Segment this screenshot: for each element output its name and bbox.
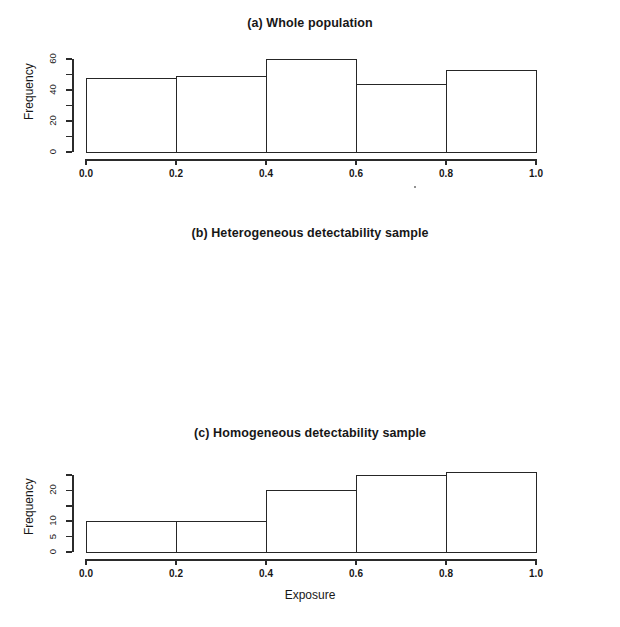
y-tick bbox=[66, 74, 72, 76]
y-tick bbox=[66, 105, 72, 107]
x-tick-label: 0.0 bbox=[66, 168, 106, 179]
x-tick-label: 0.6 bbox=[336, 168, 376, 179]
panel-a-y-axis-label: Frequency bbox=[22, 63, 36, 120]
histogram-figure: (a) Whole population Frequency 02040600.… bbox=[0, 0, 620, 627]
x-axis-line bbox=[86, 159, 536, 161]
y-tick bbox=[66, 120, 72, 122]
panel-homogeneous-detectability: (c) Homogeneous detectability sample Fre… bbox=[0, 410, 620, 627]
y-tick-label: 60 bbox=[47, 49, 58, 69]
x-tick bbox=[265, 159, 267, 165]
panel-c-title: (c) Homogeneous detectability sample bbox=[0, 426, 620, 440]
histogram-bar bbox=[446, 70, 537, 154]
y-tick bbox=[66, 136, 72, 138]
histogram-bar bbox=[266, 59, 357, 153]
histogram-bar bbox=[176, 76, 267, 153]
x-tick bbox=[175, 159, 177, 165]
x-tick-label: 0.2 bbox=[156, 168, 196, 179]
panel-heterogeneous-detectability: (b) Heterogeneous detectability sample F… bbox=[0, 210, 620, 410]
y-tick bbox=[66, 151, 72, 153]
y-tick-label: 40 bbox=[47, 80, 58, 100]
histogram-bar bbox=[356, 84, 447, 154]
y-tick bbox=[66, 58, 72, 60]
y-tick bbox=[66, 89, 72, 91]
x-tick-label: 0.8 bbox=[426, 168, 466, 179]
x-tick bbox=[535, 159, 537, 165]
scan-speck bbox=[414, 186, 416, 188]
panel-a-title: (a) Whole population bbox=[0, 16, 620, 30]
x-tick bbox=[445, 159, 447, 165]
x-tick bbox=[85, 159, 87, 165]
x-tick bbox=[355, 159, 357, 165]
y-tick-label: 0 bbox=[47, 142, 58, 162]
x-axis-label: Exposure bbox=[0, 588, 620, 602]
x-tick-label: 0.4 bbox=[246, 168, 286, 179]
histogram-bar bbox=[86, 78, 177, 154]
x-tick-label: 1.0 bbox=[516, 168, 556, 179]
panel-b-title: (b) Heterogeneous detectability sample bbox=[0, 226, 620, 240]
y-axis-line bbox=[72, 59, 74, 152]
panel-whole-population: (a) Whole population Frequency 02040600.… bbox=[0, 0, 620, 210]
y-tick-label: 20 bbox=[47, 111, 58, 131]
